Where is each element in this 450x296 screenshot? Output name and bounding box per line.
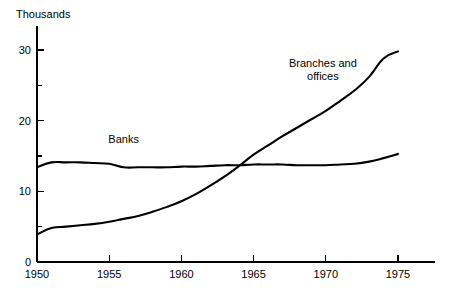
line-chart: 0102030 195019551960196519701975 BanksBr… — [0, 0, 450, 296]
x-tick-label-1955: 1955 — [97, 268, 121, 280]
y-tick-label-30: 30 — [19, 44, 31, 56]
y-axis-ticks: 0102030 — [19, 44, 44, 268]
series-line-branches-and-offices — [37, 51, 398, 234]
y-tick-label-20: 20 — [19, 115, 31, 127]
x-axis-ticks: 195019551960196519701975 — [25, 255, 410, 280]
series-label-branches-and-offices-line2: offices — [307, 70, 339, 82]
y-axis-unit-label: Thousands — [16, 8, 71, 20]
x-tick-label-1970: 1970 — [314, 268, 338, 280]
x-tick-label-1950: 1950 — [25, 268, 49, 280]
axes — [37, 26, 435, 262]
x-tick-label-1960: 1960 — [169, 268, 193, 280]
x-tick-label-1965: 1965 — [241, 268, 265, 280]
y-tick-label-10: 10 — [19, 185, 31, 197]
data-series — [37, 51, 398, 234]
series-label-branches-and-offices-line1: Branches and — [289, 57, 357, 69]
y-tick-label-0: 0 — [25, 256, 31, 268]
chart-container: 0102030 195019551960196519701975 BanksBr… — [0, 0, 450, 296]
series-labels: BanksBranches andoffices — [108, 57, 357, 145]
x-tick-label-1975: 1975 — [386, 268, 410, 280]
series-line-banks — [37, 154, 398, 168]
series-label-banks: Banks — [108, 133, 139, 145]
